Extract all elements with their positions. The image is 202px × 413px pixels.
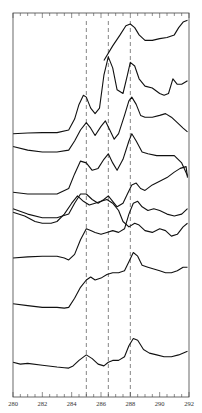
spectrum-trace-7 — [13, 201, 188, 260]
x-axis-ticks — [13, 13, 189, 397]
spectrum-trace-8 — [13, 253, 188, 309]
spectrum-trace-6 — [13, 196, 188, 236]
x-tick-label: 286 — [96, 400, 107, 407]
spectrum-trace-5 — [13, 167, 188, 218]
x-tick-label: 284 — [67, 400, 78, 407]
x-tick-label: 280 — [8, 400, 18, 407]
x-tick-label: 292 — [184, 400, 194, 407]
spectrum-trace-1 — [104, 20, 188, 60]
x-tick-label: 288 — [125, 400, 135, 407]
spectrum-trace-4 — [13, 134, 188, 194]
spectrum-trace-9 — [13, 339, 188, 369]
x-axis-tick-labels: 280282284286288290292 — [8, 400, 194, 407]
plot-frame — [13, 13, 189, 397]
spectra-chart: 280282284286288290292 — [0, 0, 202, 413]
reference-lines — [86, 21, 130, 397]
x-tick-label: 282 — [37, 400, 47, 407]
x-tick-label: 290 — [155, 400, 165, 407]
spectrum-trace-2 — [13, 57, 188, 134]
spectra-traces — [13, 20, 188, 368]
